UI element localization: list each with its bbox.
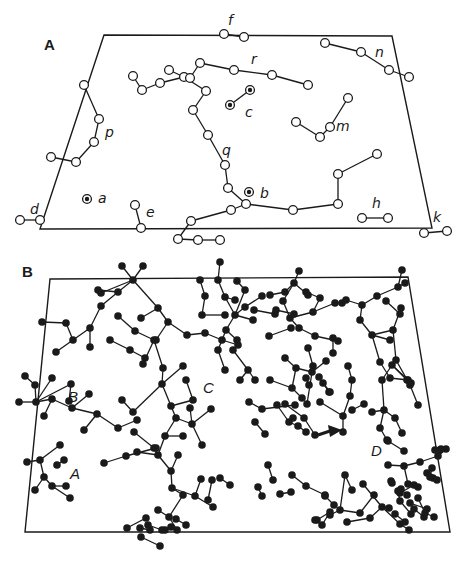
- panel-b-node: [188, 420, 196, 428]
- arrow-head-icon: [328, 425, 342, 437]
- panel-b-node: [86, 324, 94, 332]
- panel-b-edge: [372, 335, 380, 362]
- panel-b-node: [154, 451, 162, 459]
- panel-b-edge: [133, 384, 162, 412]
- panel-b-node: [305, 381, 313, 389]
- panel-a-node: [385, 66, 394, 75]
- panel-b-node: [164, 318, 172, 326]
- panel-b-node: [182, 376, 190, 384]
- panel-b-node: [388, 361, 396, 369]
- figure-canvas: A fnrcmpqabdehk B ABCD: [0, 0, 469, 570]
- panel-b-node: [254, 483, 262, 491]
- panel-a-node: [194, 236, 203, 245]
- panel-b-node: [69, 336, 77, 344]
- panel-b-edge: [382, 380, 384, 410]
- panel-a-label: A: [44, 36, 55, 53]
- panel-b-node: [142, 514, 150, 522]
- panel-b-node: [198, 311, 206, 319]
- panel-b-node: [401, 518, 409, 526]
- panel-b-node: [146, 526, 154, 534]
- panel-b-node: [376, 424, 384, 432]
- panel-b-node: [311, 431, 319, 439]
- panel-b-node: [236, 376, 244, 384]
- panel-a-edge: [234, 70, 272, 75]
- panel-b-node: [52, 348, 60, 356]
- panel-b-node: [298, 394, 306, 402]
- panel-b-node: [382, 297, 390, 305]
- panel-b-node: [302, 288, 310, 296]
- panel-a-node: [47, 153, 56, 162]
- panel-b-node: [154, 304, 162, 312]
- panel-b-node: [407, 379, 415, 387]
- panel-b-node: [266, 376, 274, 384]
- panel-b-node: [290, 310, 298, 318]
- panel-b-node: [129, 276, 137, 284]
- panel-b-node: [36, 456, 44, 464]
- panel-b-node: [38, 318, 46, 326]
- panel-b-node: [179, 432, 187, 440]
- panel-b-node: [431, 446, 439, 454]
- panel-b-edge: [154, 340, 163, 368]
- panel-b-node: [342, 296, 350, 304]
- panel-b-node: [380, 406, 388, 414]
- panel-b-node: [197, 475, 205, 483]
- panel-b-node: [168, 484, 176, 492]
- panel-b-node: [290, 279, 298, 287]
- panel-b-node: [410, 481, 418, 489]
- panel-b-node: [336, 506, 344, 514]
- panel-b-node: [86, 343, 94, 351]
- panel-b-node: [158, 380, 166, 388]
- panel-b-node: [31, 486, 39, 494]
- panel-b-node: [126, 346, 134, 354]
- cluster-label-b: b: [260, 185, 269, 201]
- panel-b-node: [191, 492, 199, 500]
- panel-b-node: [68, 404, 76, 412]
- panel-b-node: [21, 372, 29, 380]
- panel-b-node: [114, 288, 122, 296]
- panel-b-node: [233, 277, 241, 285]
- panel-b-node: [316, 398, 324, 406]
- panel-b-node: [348, 406, 356, 414]
- panel-b-node: [114, 312, 122, 320]
- panel-b-node: [295, 324, 303, 332]
- panel-b-node: [414, 494, 422, 502]
- panel-b-node: [258, 292, 266, 300]
- panel-a-edge: [200, 63, 234, 70]
- panel-b-node: [368, 331, 376, 339]
- panel-b-node: [331, 299, 339, 307]
- panel-a-node: [443, 227, 452, 236]
- panel-b-node: [48, 374, 56, 382]
- panel-b-node: [100, 459, 108, 467]
- panel-b-node: [302, 374, 310, 382]
- panel-b-edge: [134, 432, 154, 448]
- panel-a-node: [131, 201, 140, 210]
- panel-b-node: [172, 414, 180, 422]
- panel-a-node: [358, 214, 367, 223]
- panel-b-node: [265, 332, 273, 340]
- panel-b-node: [271, 310, 279, 318]
- panel-b-node: [348, 376, 356, 384]
- panel-b-node: [139, 360, 147, 368]
- panel-b-node: [123, 524, 131, 532]
- region-label-b: B: [68, 388, 78, 405]
- panel-b-node: [139, 262, 147, 270]
- panel-b-node: [218, 336, 226, 344]
- panel-a-node: [227, 206, 236, 215]
- arrow-annotation: [318, 425, 342, 437]
- panel-a-node: [334, 200, 343, 209]
- cluster-label-d: d: [30, 201, 39, 217]
- panel-b-node: [53, 461, 61, 469]
- panel-a-node: [289, 206, 298, 215]
- target-node-core: [247, 190, 251, 194]
- arrow-shaft: [318, 431, 330, 435]
- panel-b-node: [391, 414, 399, 422]
- panel-b-node: [326, 388, 334, 396]
- panel-a-node: [292, 118, 301, 127]
- panel-b-node: [261, 430, 269, 438]
- panel-b-node: [118, 396, 126, 404]
- panel-b-node: [174, 451, 182, 459]
- cluster-label-r: r: [251, 51, 258, 67]
- panel-b-node: [370, 491, 378, 499]
- panel-a-node: [187, 217, 196, 226]
- panel-b-node: [416, 458, 424, 466]
